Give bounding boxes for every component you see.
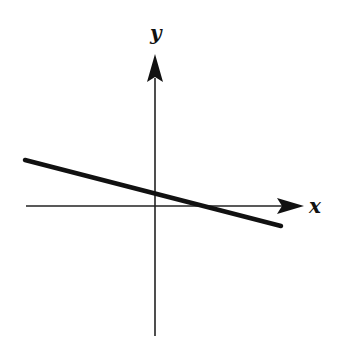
x-axis-label: x [308,194,322,218]
coordinate-plane: y x [0,0,338,351]
y-axis-arrow-icon [147,54,163,82]
y-axis-label: y [149,21,163,45]
plotted-line [25,160,281,226]
